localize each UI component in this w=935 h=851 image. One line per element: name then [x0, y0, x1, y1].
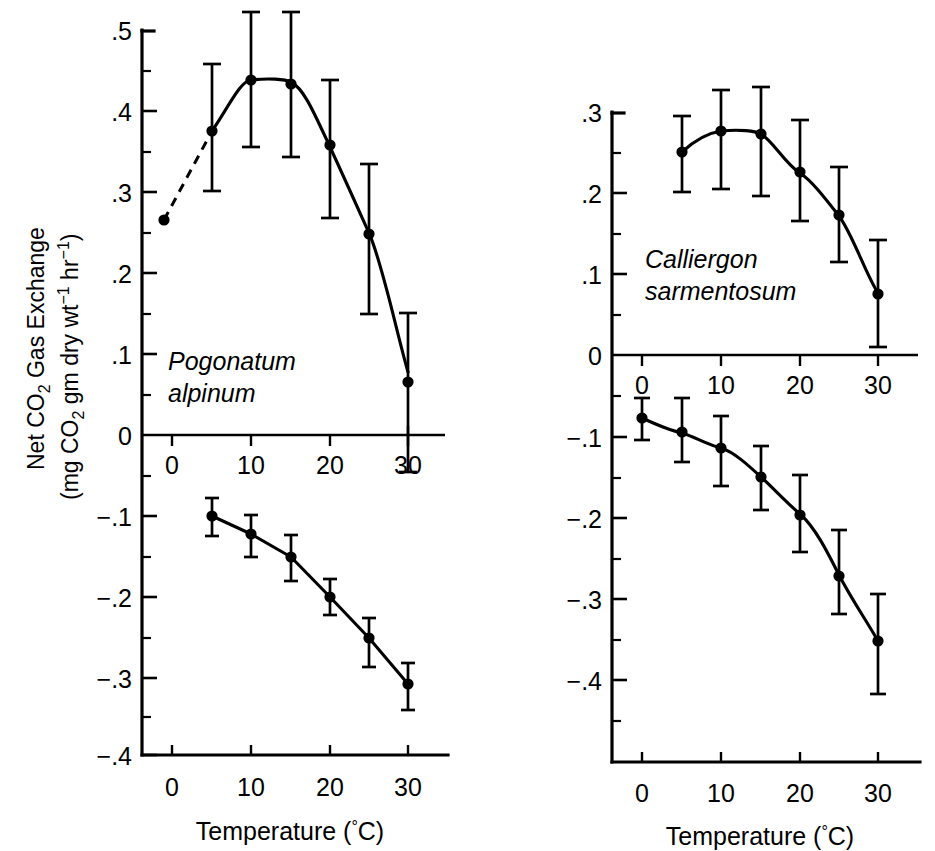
ytick-label: .2	[581, 180, 602, 208]
ytick-label: −.3	[567, 586, 602, 614]
data-point	[206, 125, 217, 136]
data-point	[402, 376, 413, 387]
ytick-label: −.2	[97, 584, 132, 612]
left-x-axis-title: Temperature (°C)	[196, 817, 384, 845]
data-point	[324, 139, 335, 150]
ytick-label: −.1	[567, 424, 602, 452]
left-respiration-line	[212, 516, 408, 684]
data-point	[245, 528, 256, 539]
xtick-label: 10	[707, 779, 735, 807]
species-line2: alpinum	[168, 379, 256, 407]
left-y-ticks	[142, 71, 157, 755]
right-x-tick-labels-zero: 0 10 20 30	[635, 371, 892, 399]
data-point	[402, 678, 413, 689]
right-respiration-series	[634, 398, 886, 694]
ytick-label: .1	[111, 341, 132, 369]
data-point	[794, 166, 805, 177]
left-dashed-lead-segment	[164, 131, 212, 220]
data-point	[324, 591, 335, 602]
left-respiration-series	[205, 498, 415, 710]
xtick-label: 20	[316, 773, 344, 801]
left-photosynthesis-line	[212, 79, 408, 372]
ytick-label: .5	[111, 17, 132, 45]
ytick-label: .1	[581, 261, 602, 289]
data-point	[285, 551, 296, 562]
y-axis-label-line1: Net CO2 Gas Exchange	[23, 227, 53, 470]
figure-container: Net CO2 Gas Exchange (mg CO2 gm dry wt−1…	[0, 0, 935, 851]
xtick-label: 20	[316, 451, 344, 479]
data-point	[715, 442, 726, 453]
y-axis-label-line2: (mg CO2 gm dry wt−1 hr−1)	[55, 234, 87, 501]
data-point	[833, 209, 844, 220]
data-point	[872, 635, 883, 646]
data-point	[206, 510, 217, 521]
y-axis-label-group: Net CO2 Gas Exchange (mg CO2 gm dry wt−1…	[23, 227, 87, 500]
xtick-label: 10	[237, 451, 265, 479]
left-y-tick-labels: .5 .4 .3 .2 .1 0 −.1 −.2 −.3 −.4	[97, 17, 133, 770]
left-species-label: Pogonatum alpinum	[168, 347, 296, 407]
right-x-axis-title: Temperature (°C)	[666, 822, 854, 850]
xtick-label: 0	[635, 371, 649, 399]
ytick-label: −.4	[97, 742, 133, 770]
xtick-label: 30	[864, 371, 892, 399]
right-error-bars-photosynthesis	[673, 87, 887, 347]
data-point	[363, 228, 374, 239]
ytick-label: .2	[111, 260, 132, 288]
ytick-label: −.3	[97, 665, 132, 693]
data-point	[158, 214, 169, 225]
right-photosynthesis-series	[673, 87, 887, 347]
data-point	[833, 570, 844, 581]
ytick-label: −.1	[97, 503, 132, 531]
xtick-label: 0	[165, 451, 179, 479]
xtick-label: 30	[864, 779, 892, 807]
species-line1: Pogonatum	[168, 347, 296, 375]
ytick-label: 0	[588, 342, 602, 370]
data-point	[755, 128, 766, 139]
species-line1: Calliergon	[645, 245, 758, 273]
left-markers-photosynthesis	[158, 74, 413, 387]
xtick-label: 30	[394, 773, 422, 801]
data-point	[363, 632, 374, 643]
data-point	[715, 125, 726, 136]
right-y-ticks	[612, 153, 627, 721]
xtick-label: 10	[237, 773, 265, 801]
data-point	[636, 412, 647, 423]
data-point	[285, 78, 296, 89]
right-error-bars-respiration	[634, 398, 886, 694]
left-panel: .5 .4 .3 .2 .1 0 −.1 −.2 −.3 −.4 0 10	[97, 12, 448, 845]
right-panel: .3 .2 .1 0 −.1 −.2 −.3 −.4 0 10 20 30	[567, 87, 920, 850]
ytick-label: −.2	[567, 505, 602, 533]
xtick-label: 0	[635, 779, 649, 807]
right-species-label: Calliergon sarmentosum	[645, 245, 796, 305]
left-x-tick-labels-bottom: 0 10 20 30	[165, 773, 422, 801]
left-error-bars-respiration	[205, 498, 415, 710]
ytick-label: .4	[111, 98, 132, 126]
ytick-label: −.4	[567, 667, 603, 695]
right-x-ticks-zero	[642, 355, 878, 366]
xtick-label: 20	[786, 779, 814, 807]
left-x-tick-labels-zero: 0 10 20 30	[165, 451, 422, 479]
xtick-label: 0	[165, 773, 179, 801]
xtick-label: 10	[707, 371, 735, 399]
data-point	[245, 74, 256, 85]
data-point	[755, 471, 766, 482]
xtick-label: 20	[786, 371, 814, 399]
data-point	[676, 426, 687, 437]
right-y-tick-labels: .3 .2 .1 0 −.1 −.2 −.3 −.4	[567, 99, 603, 695]
data-point	[676, 146, 687, 157]
left-markers-respiration	[206, 510, 413, 689]
right-x-tick-labels-bottom: 0 10 20 30	[635, 779, 892, 807]
species-line2: sarmentosum	[645, 277, 796, 305]
ytick-label: 0	[118, 422, 132, 450]
ytick-label: .3	[581, 99, 602, 127]
scientific-figure: Net CO2 Gas Exchange (mg CO2 gm dry wt−1…	[0, 0, 935, 851]
data-point	[872, 288, 883, 299]
ytick-label: .3	[111, 179, 132, 207]
data-point	[794, 509, 805, 520]
